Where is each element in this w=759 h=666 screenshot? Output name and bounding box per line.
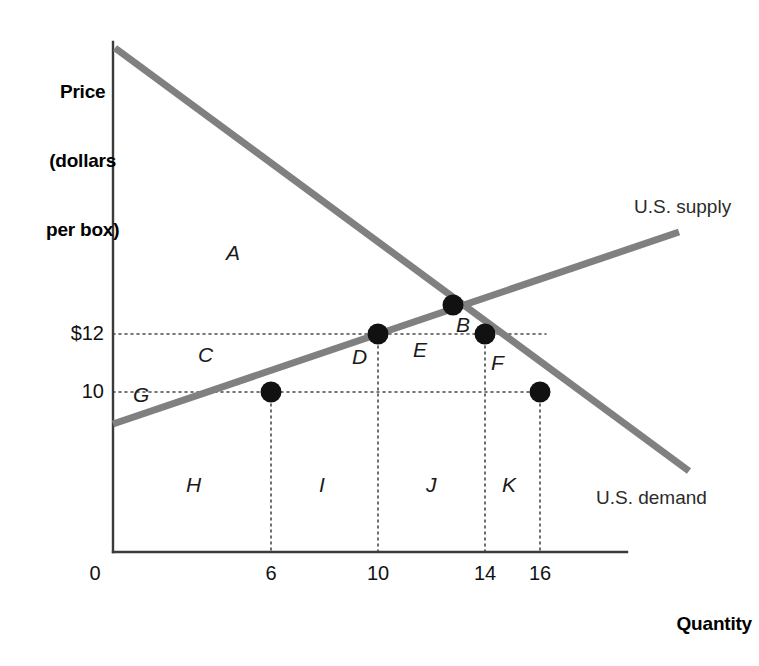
y-axis-title: Price (dollars per box) [46, 34, 119, 287]
region-label-h: H [186, 473, 201, 497]
supply-demand-chart: Price (dollars per box) Quantity (millio… [0, 0, 759, 666]
marker-q10-p12 [368, 324, 389, 345]
us-supply-label: U.S. supply [634, 196, 731, 218]
x-tick-label-10: 10 [359, 562, 397, 585]
x-axis-title: Quantity (millions of boxes) [600, 566, 752, 666]
marker-q16-p10 [530, 382, 551, 403]
marker-dots [261, 295, 551, 403]
y-axis-title-line-3: per box) [46, 218, 119, 241]
us-supply-curve [113, 232, 679, 424]
x-tick-label-14: 14 [466, 562, 504, 585]
y-tick-label-12: $12 [34, 322, 104, 345]
marker-q14-p12 [475, 324, 496, 345]
x-tick-label-16: 16 [521, 562, 559, 585]
y-tick-label-10: 10 [34, 380, 104, 403]
marker-q6-p10 [261, 382, 282, 403]
region-label-g: G [133, 383, 149, 407]
x-tick-label-6: 6 [254, 562, 288, 585]
y-axis-title-line-1: Price [46, 80, 119, 103]
region-label-e: E [413, 338, 427, 362]
x-tick-label-0: 0 [78, 562, 112, 585]
region-label-j: J [426, 473, 437, 497]
x-axis-title-line-1: Quantity [600, 612, 752, 635]
y-axis-title-line-2: (dollars [46, 149, 119, 172]
region-label-k: K [502, 473, 516, 497]
us-demand-label: U.S. demand [596, 487, 707, 509]
region-label-i: I [319, 473, 325, 497]
region-label-a: A [226, 241, 240, 265]
region-label-f: F [491, 351, 504, 375]
region-label-d: D [352, 345, 367, 369]
region-label-c: C [198, 343, 213, 367]
region-label-b: B [456, 313, 470, 337]
